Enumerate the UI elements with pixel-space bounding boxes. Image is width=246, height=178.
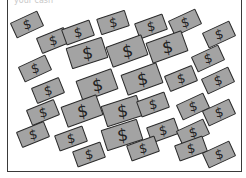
- illustration-frame: $$$$$$$$$$$$$$$$$$$$$$$$$$$$$$$$: [7, 0, 242, 172]
- dollar-sign-icon: $: [38, 105, 49, 119]
- dollar-sign-icon: $: [43, 83, 54, 97]
- dollar-sign-icon: $: [108, 15, 118, 29]
- dollar-sign-icon: $: [176, 71, 187, 85]
- dollar-bill: $: [96, 10, 130, 35]
- dollar-sign-icon: $: [66, 131, 76, 145]
- dollar-bill: $: [60, 94, 103, 128]
- dollar-sign-icon: $: [84, 147, 94, 161]
- dollar-bill: $: [120, 62, 163, 96]
- dollar-bill: $: [105, 34, 148, 68]
- dollar-bill: $: [16, 121, 50, 148]
- dollar-sign-icon: $: [73, 25, 83, 39]
- dollar-sign-icon: $: [213, 27, 224, 42]
- dollar-sign-icon: $: [186, 141, 196, 155]
- dollar-sign-icon: $: [75, 102, 89, 121]
- dollar-sign-icon: $: [213, 147, 224, 162]
- dollar-bill: $: [164, 65, 198, 92]
- dollar-bill: $: [201, 66, 235, 94]
- dollar-bill: $: [10, 10, 44, 38]
- dollar-bill: $: [18, 54, 52, 82]
- dollar-bill: $: [191, 44, 225, 72]
- dollar-bill: $: [202, 140, 236, 168]
- dollar-sign-icon: $: [158, 123, 168, 137]
- dollar-sign-icon: $: [80, 44, 93, 62]
- dollar-sign-icon: $: [120, 42, 134, 61]
- dollar-sign-icon: $: [29, 61, 40, 76]
- dollar-sign-icon: $: [28, 127, 39, 141]
- dollar-sign-icon: $: [160, 38, 174, 57]
- dollar-sign-icon: $: [138, 141, 148, 155]
- dollar-sign-icon: $: [115, 126, 128, 144]
- dollar-bill: $: [202, 20, 236, 48]
- dollar-sign-icon: $: [48, 33, 59, 47]
- dollar-sign-icon: $: [146, 19, 156, 33]
- dollar-sign-icon: $: [115, 102, 128, 120]
- dollar-sign-icon: $: [179, 15, 190, 30]
- dollar-sign-icon: $: [213, 105, 224, 120]
- dollar-bill: $: [136, 91, 170, 117]
- dollar-sign-icon: $: [135, 70, 149, 89]
- dollar-sign-icon: $: [212, 73, 223, 88]
- dollar-sign-icon: $: [202, 51, 213, 66]
- dollar-sign-icon: $: [90, 76, 104, 95]
- dollar-sign-icon: $: [21, 17, 32, 32]
- dollar-sign-icon: $: [187, 99, 198, 114]
- dollar-sign-icon: $: [148, 97, 158, 111]
